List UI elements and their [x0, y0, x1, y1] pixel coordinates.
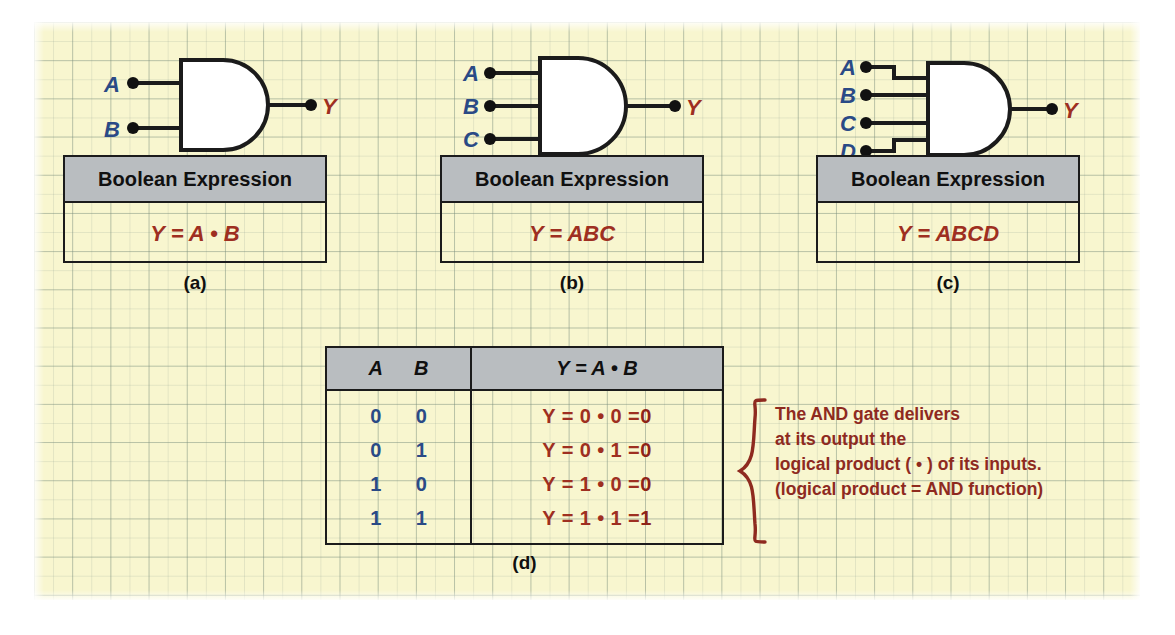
cell-b: 1: [416, 439, 427, 462]
cell-a: 0: [370, 439, 381, 462]
cell-a: 1: [370, 473, 381, 496]
and-gate-body: [540, 58, 626, 154]
figure-root: A B Y Boolean Expression Y = A • B (a) A…: [0, 0, 1175, 635]
terminal-dot-c: [860, 117, 872, 129]
terminal-dot-a: [484, 67, 496, 79]
truth-table-input-headers: A B: [327, 348, 472, 389]
terminal-dot-y: [305, 99, 317, 111]
terminal-dot-b: [484, 100, 496, 112]
column-header-y: Y = A • B: [556, 357, 637, 380]
annotation-line-1: The AND gate delivers: [775, 402, 1125, 427]
pin-label-a: A: [840, 57, 856, 79]
annotation-line-4: (logical product = AND function): [775, 477, 1125, 502]
boolean-expression-box-a: Boolean Expression Y = A • B: [63, 155, 327, 263]
table-row: 1 1: [327, 501, 470, 535]
cell-expression: Y = 0 • 1 =: [542, 439, 640, 462]
cell-result: 0: [640, 405, 652, 428]
output-label-y: Y: [686, 97, 701, 119]
panel-label-b: (b): [440, 272, 704, 294]
annotation-line-2: at its output the: [775, 427, 1125, 452]
boolean-expression-value: Y = A • B: [65, 203, 325, 265]
panel-c: A B C D Y Boolean Expression Y = ABCD (c…: [816, 50, 1080, 280]
cell-a: 0: [370, 405, 381, 428]
truth-table: A B Y = A • B 0 0 0 1 1 0: [325, 346, 724, 545]
column-header-a: A: [369, 357, 383, 380]
panel-label-a: (a): [63, 272, 327, 294]
cell-a: 1: [370, 507, 381, 530]
table-row: 0 1: [327, 433, 470, 467]
pin-label-a: A: [463, 63, 479, 85]
cell-result: 0: [640, 473, 652, 496]
boolean-expression-header: Boolean Expression: [818, 157, 1078, 203]
cell-result: 0: [640, 439, 652, 462]
wire-input-d: [866, 140, 928, 151]
and-gate-2-input: [63, 50, 327, 165]
pin-label-c: C: [463, 129, 479, 151]
annotation-line-3: logical product ( • ) of its inputs.: [775, 452, 1125, 477]
truth-table-header-row: A B Y = A • B: [327, 348, 722, 391]
output-label-y: Y: [322, 96, 337, 118]
truth-table-body: 0 0 0 1 1 0 1 1 Y = 0 • 0 = 0: [327, 391, 722, 545]
boolean-expression-header: Boolean Expression: [65, 157, 325, 203]
and-gate-body: [181, 60, 268, 150]
pin-label-a: A: [104, 74, 120, 96]
truth-table-output-header: Y = A • B: [472, 348, 722, 389]
terminal-dot-b: [127, 122, 139, 134]
pin-label-c: C: [840, 113, 856, 135]
curly-brace-icon: [735, 396, 777, 546]
wire-input-a: [866, 67, 928, 78]
table-row: Y = 1 • 0 = 0: [472, 467, 722, 501]
column-header-b: B: [414, 357, 428, 380]
cell-b: 0: [416, 473, 427, 496]
boolean-expression-value: Y = ABCD: [818, 203, 1078, 265]
panel-b: A B C Y Boolean Expression Y = ABC (b): [440, 50, 704, 280]
pin-label-b: B: [840, 85, 856, 107]
pin-label-b: B: [463, 96, 479, 118]
boolean-expression-value: Y = ABC: [442, 203, 702, 265]
boolean-expression-header: Boolean Expression: [442, 157, 702, 203]
terminal-dot-a: [860, 61, 872, 73]
cell-expression: Y = 0 • 0 =: [542, 405, 640, 428]
terminal-dot-b: [860, 89, 872, 101]
terminal-dot-c: [484, 133, 496, 145]
and-gate-body: [928, 63, 1010, 155]
and-gate-3-input: [440, 50, 704, 165]
panel-label-c: (c): [816, 272, 1080, 294]
table-row: 1 0: [327, 467, 470, 501]
truth-table-input-cells: 0 0 0 1 1 0 1 1: [327, 391, 472, 545]
terminal-dot-y: [669, 100, 681, 112]
boolean-expression-box-b: Boolean Expression Y = ABC: [440, 155, 704, 263]
cell-b: 0: [416, 405, 427, 428]
table-row: Y = 0 • 1 = 0: [472, 433, 722, 467]
cell-expression: Y = 1 • 1 =: [542, 507, 640, 530]
boolean-expression-box-c: Boolean Expression Y = ABCD: [816, 155, 1080, 263]
table-row: Y = 1 • 1 = 1: [472, 501, 722, 535]
truth-table-output-cells: Y = 0 • 0 = 0 Y = 0 • 1 = 0 Y = 1 • 0 = …: [472, 391, 722, 545]
pin-label-b: B: [104, 119, 120, 141]
terminal-dot-a: [127, 77, 139, 89]
annotation-text: The AND gate delivers at its output the …: [775, 402, 1125, 502]
table-row: 0 0: [327, 399, 470, 433]
table-row: Y = 0 • 0 = 0: [472, 399, 722, 433]
output-label-y: Y: [1063, 100, 1078, 122]
cell-result: 1: [640, 507, 652, 530]
terminal-dot-y: [1046, 103, 1058, 115]
cell-b: 1: [416, 507, 427, 530]
panel-label-d: (d): [325, 552, 724, 574]
cell-expression: Y = 1 • 0 =: [542, 473, 640, 496]
panel-a: A B Y Boolean Expression Y = A • B (a): [63, 50, 327, 280]
